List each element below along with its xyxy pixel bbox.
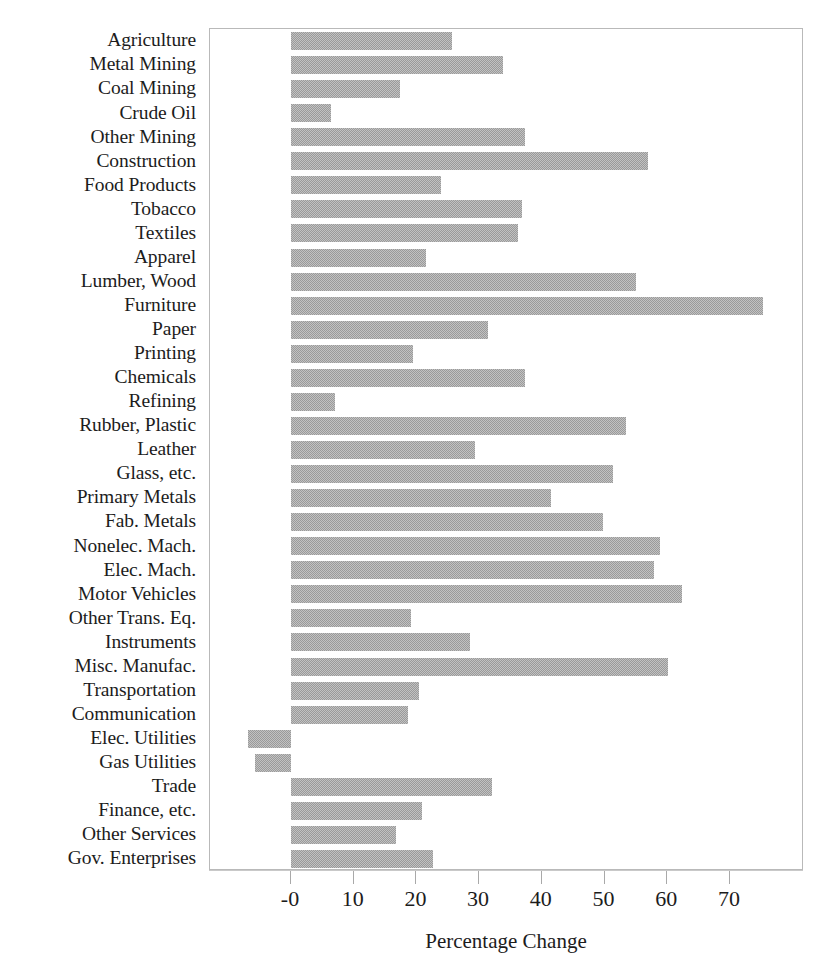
category-label: Elec. Mach. <box>0 560 196 580</box>
category-label: Finance, etc. <box>0 800 196 820</box>
category-label: Crude Oil <box>0 103 196 123</box>
category-label: Leather <box>0 439 196 459</box>
bar <box>291 609 411 627</box>
bar <box>291 249 426 267</box>
x-tick-mark <box>415 871 416 884</box>
bar <box>291 345 413 363</box>
category-label: Lumber, Wood <box>0 271 196 291</box>
x-axis-line <box>209 870 803 871</box>
bar <box>255 754 291 772</box>
bar <box>291 297 763 315</box>
category-label: Apparel <box>0 247 196 267</box>
category-label: Furniture <box>0 295 196 315</box>
category-label: Construction <box>0 151 196 171</box>
bar <box>291 417 626 435</box>
category-label: Metal Mining <box>0 54 196 74</box>
x-tick-label: 30 <box>443 886 513 912</box>
category-label: Glass, etc. <box>0 463 196 483</box>
x-tick-mark <box>541 871 542 884</box>
category-label: Other Trans. Eq. <box>0 608 196 628</box>
x-tick-label: 40 <box>506 886 576 912</box>
bar <box>248 730 291 748</box>
category-label: Communication <box>0 704 196 724</box>
x-tick-label: 50 <box>569 886 639 912</box>
category-label: Transportation <box>0 680 196 700</box>
bar <box>291 80 400 98</box>
category-label: Nonelec. Mach. <box>0 536 196 556</box>
category-label: Printing <box>0 343 196 363</box>
x-tick-label: -0 <box>255 886 325 912</box>
bar <box>291 128 525 146</box>
bar <box>291 778 492 796</box>
x-tick-mark <box>353 871 354 884</box>
category-label: Gov. Enterprises <box>0 848 196 868</box>
bar <box>291 802 422 820</box>
bar <box>291 32 452 50</box>
bar <box>291 682 419 700</box>
category-label: Textiles <box>0 223 196 243</box>
category-label: Elec. Utilities <box>0 728 196 748</box>
bar <box>291 658 668 676</box>
bar <box>291 369 525 387</box>
bar <box>291 585 682 603</box>
x-tick-mark <box>666 871 667 884</box>
percentage-change-bar-chart: AgricultureMetal MiningCoal MiningCrude … <box>0 0 814 973</box>
category-label: Food Products <box>0 175 196 195</box>
bar <box>291 537 660 555</box>
x-tick-label: 60 <box>631 886 701 912</box>
bar <box>291 56 503 74</box>
bar <box>291 152 648 170</box>
category-label: Other Mining <box>0 127 196 147</box>
bar <box>291 273 636 291</box>
bar <box>291 633 470 651</box>
x-tick-mark <box>729 871 730 884</box>
category-label: Rubber, Plastic <box>0 415 196 435</box>
category-label: Primary Metals <box>0 487 196 507</box>
x-tick-mark <box>290 871 291 884</box>
category-label: Misc. Manufac. <box>0 656 196 676</box>
x-tick-label: 20 <box>380 886 450 912</box>
x-tick-mark <box>604 871 605 884</box>
category-label: Fab. Metals <box>0 511 196 531</box>
x-tick-mark <box>478 871 479 884</box>
category-label: Other Services <box>0 824 196 844</box>
x-tick-label: 70 <box>694 886 764 912</box>
plot-area <box>209 28 803 870</box>
bar <box>291 104 331 122</box>
category-label: Motor Vehicles <box>0 584 196 604</box>
x-axis-title: Percentage Change <box>209 928 803 954</box>
bar <box>291 321 488 339</box>
category-label: Trade <box>0 776 196 796</box>
category-label-column: AgricultureMetal MiningCoal MiningCrude … <box>0 28 196 870</box>
bar <box>291 489 551 507</box>
category-label: Gas Utilities <box>0 752 196 772</box>
bar <box>291 393 335 411</box>
bar <box>291 850 433 868</box>
x-tick-label: 10 <box>318 886 388 912</box>
bar <box>291 441 475 459</box>
category-label: Agriculture <box>0 30 196 50</box>
bar <box>291 176 441 194</box>
category-label: Refining <box>0 391 196 411</box>
bar <box>291 826 396 844</box>
bar <box>291 706 408 724</box>
bar <box>291 224 518 242</box>
category-label: Tobacco <box>0 199 196 219</box>
category-label: Coal Mining <box>0 78 196 98</box>
bar <box>291 513 603 531</box>
category-label: Chemicals <box>0 367 196 387</box>
category-label: Paper <box>0 319 196 339</box>
bar <box>291 200 522 218</box>
bar <box>291 465 613 483</box>
category-label: Instruments <box>0 632 196 652</box>
bar <box>291 561 654 579</box>
